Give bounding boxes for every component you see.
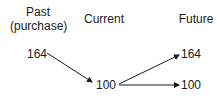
arrow-current-to-future-high [119,55,179,84]
arrow-past-to-current [47,53,92,82]
arrows-layer [0,0,217,98]
